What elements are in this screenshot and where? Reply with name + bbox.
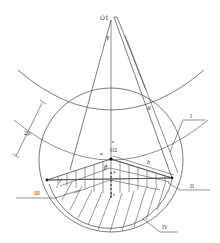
chord: [47, 178, 172, 180]
leader-i: [170, 120, 205, 152]
label-r: R: [146, 105, 151, 111]
label-z: z: [112, 192, 116, 197]
label-region-iii: III: [34, 190, 40, 196]
label-gamma: γ: [106, 33, 110, 41]
point-left-endpoint: [46, 179, 49, 182]
label-region-ii: II: [190, 183, 194, 189]
label-h: h: [147, 159, 150, 165]
point-o2: [109, 157, 112, 160]
label-alpha: α: [100, 151, 103, 156]
leader-iv: [142, 218, 178, 232]
label-region-iv: IV: [162, 224, 168, 230]
label-2p: 2p: [23, 130, 31, 137]
label-region-i: I: [190, 113, 192, 119]
line-o1-left: [70, 20, 111, 170]
inner-diagonal-left-2: [74, 180, 110, 193]
r-dimension-line: [125, 35, 178, 173]
label-s: s: [112, 139, 114, 144]
label-y: y: [112, 169, 116, 174]
leader-ii: [168, 183, 210, 190]
label-o2: O2: [110, 147, 117, 153]
region-iv-boundary: [49, 180, 172, 228]
region-iv-hatch: [47, 178, 172, 240]
diagram-canvas: O1 γ R 2p s O2 α β y z h I II III IV: [0, 0, 220, 243]
label-beta: β: [103, 163, 108, 171]
region-iii-triangle: [47, 159, 172, 180]
label-o1: O1: [100, 14, 109, 21]
point-right-endpoint: [171, 177, 174, 180]
leader-iii: [16, 190, 80, 198]
inner-diagonal-right: [110, 168, 170, 182]
inner-diagonal-right-2: [110, 180, 160, 190]
